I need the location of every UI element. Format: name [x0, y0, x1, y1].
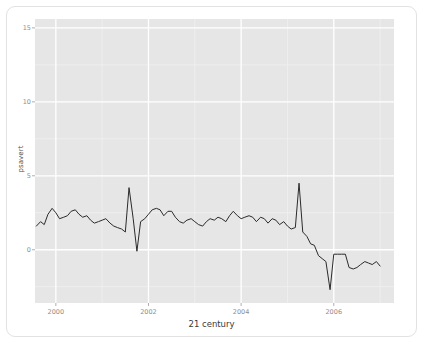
x-axis-title: 21 century	[7, 319, 416, 329]
x-axis-tick-label: 2006	[314, 308, 354, 316]
y-axis-title: psavert	[17, 129, 25, 189]
line-chart-plot	[7, 7, 418, 338]
y-axis-tick-label: 0	[11, 246, 31, 254]
y-axis-tick-label: 15	[11, 24, 31, 32]
y-axis-tick-label: 10	[11, 98, 31, 106]
y-axis-tick-label: 5	[11, 172, 31, 180]
x-axis-tick-label: 2004	[221, 308, 261, 316]
x-axis-tick-label: 2002	[128, 308, 168, 316]
x-axis-tick-label: 2000	[36, 308, 76, 316]
plot-panel-background	[35, 19, 394, 303]
chart-card: psavert 21 century 051015 20002002200420…	[6, 6, 417, 337]
